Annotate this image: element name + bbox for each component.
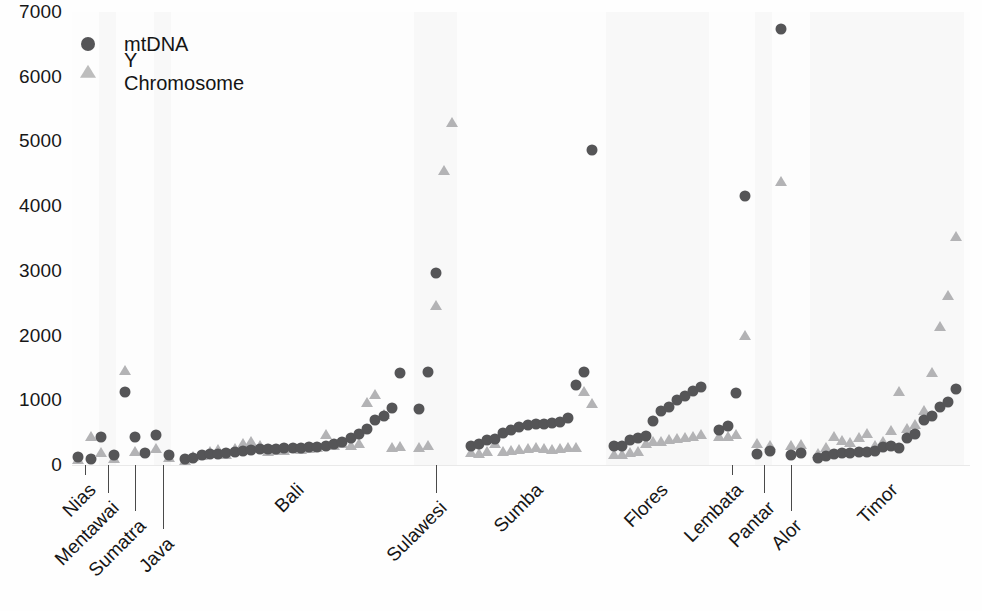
data-point-y-chromosome (861, 428, 873, 438)
data-point-mtdna (587, 145, 598, 156)
triangle-marker-icon (80, 65, 96, 78)
group-band (414, 12, 457, 465)
data-point-mtdna (739, 191, 750, 202)
x-axis-group-label: Sulawesi (382, 497, 451, 566)
data-point-mtdna (731, 387, 742, 398)
data-point-mtdna (926, 410, 937, 421)
data-point-mtdna (139, 448, 150, 459)
x-axis-baseline (72, 465, 970, 466)
data-point-y-chromosome (446, 117, 458, 127)
y-axis-tick-label: 3000 (0, 260, 62, 282)
data-point-y-chromosome (320, 429, 332, 439)
data-point-mtdna (422, 367, 433, 378)
y-axis-tick-label: 2000 (0, 325, 62, 347)
x-axis-group-label: Sumba (489, 479, 547, 537)
data-point-mtdna (776, 24, 787, 35)
data-point-y-chromosome (438, 165, 450, 175)
data-point-mtdna (395, 368, 406, 379)
data-point-y-chromosome (730, 429, 742, 439)
data-point-mtdna (386, 403, 397, 414)
data-point-mtdna (109, 450, 120, 461)
x-axis-group-label: Alor (767, 515, 806, 554)
data-point-y-chromosome (926, 367, 938, 377)
x-axis-group-label: Timor (853, 479, 902, 528)
circle-marker-icon (81, 37, 95, 51)
data-point-y-chromosome (422, 440, 434, 450)
data-point-y-chromosome (885, 425, 897, 435)
figure-root: 01000200030004000500060007000 NiasMentaw… (0, 0, 982, 611)
y-axis-tick-label: 5000 (0, 130, 62, 152)
data-point-y-chromosome (739, 330, 751, 340)
data-point-y-chromosome (150, 443, 162, 453)
data-point-y-chromosome (570, 442, 582, 452)
data-point-mtdna (752, 448, 763, 459)
data-point-mtdna (120, 386, 131, 397)
data-point-mtdna (164, 449, 175, 460)
data-point-mtdna (722, 421, 733, 432)
data-point-y-chromosome (586, 398, 598, 408)
data-point-y-chromosome (775, 176, 787, 186)
y-axis-tick-label: 6000 (0, 66, 62, 88)
data-point-y-chromosome (119, 365, 131, 375)
x-axis-label-leader-line (436, 465, 437, 493)
data-point-mtdna (130, 431, 141, 442)
x-axis-group-label: Flores (620, 479, 673, 532)
data-point-mtdna (570, 379, 581, 390)
data-point-y-chromosome (695, 429, 707, 439)
data-point-y-chromosome (893, 386, 905, 396)
data-point-mtdna (910, 428, 921, 439)
x-axis-label-leader-line (791, 465, 792, 511)
group-band (755, 12, 772, 465)
legend-label-y-chromosome: Y Chromosome (124, 49, 244, 95)
data-point-mtdna (640, 430, 651, 441)
x-axis-label-leader-line (732, 465, 733, 475)
data-point-mtdna (951, 383, 962, 394)
data-point-mtdna (562, 413, 573, 424)
data-point-mtdna (362, 423, 373, 434)
group-band (810, 12, 964, 465)
x-axis-label-leader-line (85, 465, 86, 475)
y-axis-tick-label: 1000 (0, 389, 62, 411)
data-point-mtdna (150, 430, 161, 441)
data-point-y-chromosome (942, 290, 954, 300)
y-axis-tick-label: 4000 (0, 195, 62, 217)
x-axis-label-leader-line (108, 465, 109, 493)
data-point-y-chromosome (430, 300, 442, 310)
group-band (99, 12, 116, 465)
data-point-y-chromosome (950, 231, 962, 241)
data-point-mtdna (73, 452, 84, 463)
data-point-mtdna (695, 382, 706, 393)
x-axis-label-leader-line (764, 465, 765, 493)
data-point-mtdna (795, 448, 806, 459)
data-point-mtdna (942, 396, 953, 407)
data-point-y-chromosome (369, 389, 381, 399)
data-point-mtdna (894, 443, 905, 454)
data-point-mtdna (578, 367, 589, 378)
data-point-mtdna (648, 415, 659, 426)
data-point-y-chromosome (934, 321, 946, 331)
data-point-mtdna (96, 432, 107, 443)
data-point-y-chromosome (95, 447, 107, 457)
data-point-mtdna (765, 446, 776, 457)
x-axis-group-label: Bali (270, 479, 308, 517)
y-axis-tick-label: 0 (0, 454, 62, 476)
data-point-y-chromosome (751, 438, 763, 448)
x-axis-label-leader-line (135, 465, 136, 511)
group-band (606, 12, 709, 465)
x-axis-label-leader-line (163, 465, 164, 529)
data-point-mtdna (414, 404, 425, 415)
data-point-mtdna (430, 268, 441, 279)
data-point-y-chromosome (394, 441, 406, 451)
y-axis-tick-label: 7000 (0, 1, 62, 23)
